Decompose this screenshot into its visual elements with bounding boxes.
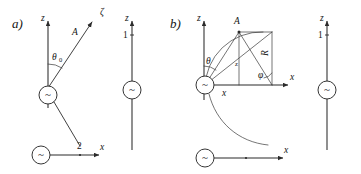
panel-b-height-label: z xyxy=(235,60,238,67)
panel-a-source-lower-symbol: ~ xyxy=(38,148,44,160)
panel-a-theta-arc xyxy=(48,64,62,68)
panel-b-theta-label: θ xyxy=(206,56,211,66)
panel-b-phi-label: φ xyxy=(258,70,263,80)
panel-a-z-axis-label: z xyxy=(40,13,45,23)
panel-a: a) z A ζ θ 0 ~ ~ 2 x xyxy=(12,7,105,164)
panel-b-point-a-label: A xyxy=(233,16,240,26)
panel-b-theta-arc xyxy=(204,66,216,70)
panel-a-tick-label: 2 xyxy=(77,141,82,151)
panel-a-right-z-axis-label: z xyxy=(124,13,129,23)
panel-b-source-lower-symbol: ~ xyxy=(202,151,208,163)
panel-b-source-origin-symbol: ~ xyxy=(202,78,208,90)
panel-b-right-z-axis-label: z xyxy=(319,13,324,23)
panel-b-point-a-dot xyxy=(238,31,241,34)
panel-b-right-source-symbol: ~ xyxy=(324,83,330,95)
panel-b: b) z x A θ xyxy=(170,13,295,167)
figure-canvas: a) z A ζ θ 0 ~ ~ 2 x xyxy=(0,0,361,174)
panel-b-x-axis-label: x xyxy=(289,72,295,82)
panel-a-x-axis-label: x xyxy=(99,142,105,152)
panel-a-theta-label: θ xyxy=(52,52,57,62)
panel-a-source-upper-symbol: ~ xyxy=(45,88,51,100)
panel-a-x-tick-dot xyxy=(79,154,81,156)
panel-a-right-source-symbol: ~ xyxy=(129,83,135,95)
panel-a-theta-subscript: 0 xyxy=(59,56,62,63)
panel-b-lower-x-axis-label: x xyxy=(283,145,289,155)
panel-b-label: b) xyxy=(170,16,181,31)
panel-b-lower-x-tick-dot xyxy=(245,157,247,159)
panel-a-zeta-label: ζ xyxy=(100,7,105,18)
panel-b-connector-curve xyxy=(209,94,268,145)
panel-a-right: z 1 ~ xyxy=(123,13,141,150)
panel-b-right: z 1 ~ xyxy=(318,13,336,150)
panel-b-z-axis-label: z xyxy=(196,13,201,23)
panel-b-right-tick-label: 1 xyxy=(318,30,323,40)
panel-a-ray-label: A xyxy=(71,27,78,37)
figure-diagram: a) z A ζ θ 0 ~ ~ 2 x xyxy=(0,0,361,174)
panel-b-base-label: x xyxy=(221,88,227,98)
panel-a-right-tick-label: 1 xyxy=(123,30,128,40)
panel-a-label: a) xyxy=(12,16,23,31)
panel-a-diagonal xyxy=(54,102,80,146)
panel-b-radius-label: R xyxy=(260,50,270,57)
